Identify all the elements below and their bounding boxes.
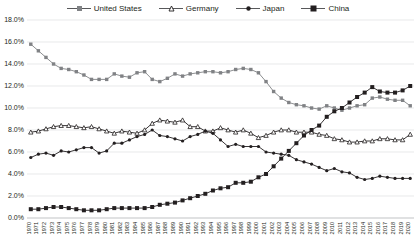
data-point-marker — [362, 139, 366, 143]
x-axis-tick-label: 2002 — [269, 222, 275, 234]
data-point-marker — [295, 158, 298, 161]
data-point-marker — [378, 137, 382, 141]
x-axis-tick-label: 1996 — [223, 222, 229, 234]
x-axis-tick-label: 2003 — [276, 222, 282, 234]
data-point-marker — [165, 202, 169, 206]
data-point-marker — [120, 142, 123, 145]
data-point-marker — [393, 91, 397, 95]
x-axis-tick-label: 1987 — [155, 222, 161, 234]
data-point-marker — [135, 71, 138, 74]
y-axis-tick-label: 10.0% — [4, 104, 24, 111]
data-point-marker — [287, 101, 290, 104]
x-axis-tick-label: 1978 — [87, 222, 93, 234]
data-point-marker — [105, 207, 109, 211]
data-point-marker — [378, 95, 381, 98]
data-point-marker — [393, 177, 396, 180]
legend-item-china[interactable]: China — [301, 4, 349, 13]
data-point-marker — [249, 68, 252, 71]
data-point-marker — [333, 167, 336, 170]
x-axis-tick-label: 1982 — [117, 222, 123, 234]
data-point-marker — [59, 205, 63, 209]
data-point-marker — [317, 124, 321, 128]
data-point-marker — [355, 95, 359, 99]
data-series-group — [29, 43, 413, 213]
data-point-marker — [196, 133, 199, 136]
legend-line-united-states — [67, 4, 91, 12]
x-axis-tick-label: 1970 — [26, 222, 32, 234]
y-axis-tick-label: 6.0% — [8, 148, 24, 155]
x-axis-tick-label: 1990 — [178, 222, 184, 234]
data-point-marker — [105, 78, 108, 81]
data-point-marker — [127, 206, 131, 210]
filled-square-marker-icon — [310, 5, 317, 12]
data-point-marker — [233, 130, 237, 134]
data-point-marker — [196, 194, 200, 198]
x-axis-tick-label: 1992 — [193, 222, 199, 234]
data-point-marker — [264, 150, 267, 153]
x-axis-tick-label: 2012 — [345, 222, 351, 234]
x-axis-tick-label: 1991 — [185, 222, 191, 234]
data-point-marker — [89, 125, 93, 129]
data-point-marker — [158, 118, 162, 122]
data-point-marker — [302, 130, 306, 134]
data-point-marker — [370, 85, 374, 89]
data-point-marker — [294, 130, 298, 134]
data-point-marker — [310, 163, 313, 166]
y-axis-tick-label: 14.0% — [4, 60, 24, 67]
data-point-marker — [355, 176, 358, 179]
x-axis-tick-label: 1985 — [140, 222, 146, 234]
data-point-marker — [363, 91, 367, 95]
data-point-marker — [173, 120, 177, 124]
x-axis-tick-label: 2016 — [375, 222, 381, 234]
x-axis-tick-label: 1971 — [33, 222, 39, 234]
x-axis-tick-label: 2000 — [253, 222, 259, 234]
data-point-marker — [158, 203, 162, 207]
data-point-marker — [280, 153, 283, 156]
data-point-marker — [90, 208, 94, 212]
data-point-marker — [143, 133, 146, 136]
legend-label-china: China — [328, 4, 349, 13]
x-axis-tick-label: 2017 — [382, 222, 388, 234]
data-point-marker — [219, 186, 223, 190]
y-axis-tick-label: 4.0% — [8, 170, 24, 177]
data-point-marker — [112, 206, 116, 210]
data-point-marker — [310, 128, 314, 132]
data-point-marker — [135, 131, 139, 135]
data-point-marker — [105, 149, 108, 152]
x-axis-tick-label: 2014 — [360, 222, 366, 234]
data-point-marker — [317, 107, 320, 110]
data-point-marker — [74, 125, 78, 129]
data-point-marker — [211, 70, 214, 73]
series-china — [29, 84, 412, 212]
data-point-marker — [181, 139, 184, 142]
legend-item-united-states[interactable]: United States — [67, 4, 142, 13]
legend-item-japan[interactable]: Japan — [236, 4, 285, 13]
x-axis-tick-label: 1998 — [238, 222, 244, 234]
data-point-marker — [181, 74, 184, 77]
x-axis-tick-label: 1975 — [64, 222, 70, 234]
data-point-marker — [173, 137, 176, 140]
data-point-marker — [317, 132, 321, 136]
x-axis-tick-label: 2015 — [367, 222, 373, 234]
x-axis-tick-label: 2019 — [398, 222, 404, 234]
data-point-marker — [36, 129, 40, 133]
data-point-marker — [120, 74, 123, 77]
data-point-marker — [257, 71, 260, 74]
data-point-marker — [310, 106, 313, 109]
data-point-marker — [82, 146, 85, 149]
data-point-marker — [241, 181, 245, 185]
data-point-marker — [29, 130, 33, 134]
square-marker-icon — [76, 5, 83, 12]
x-axis-tick-label: 1984 — [132, 222, 138, 234]
data-point-marker — [401, 88, 405, 92]
data-point-marker — [211, 132, 214, 135]
legend-item-germany[interactable]: Germany — [159, 4, 219, 13]
data-point-marker — [279, 157, 283, 161]
x-axis-tick-label: 2007 — [307, 222, 313, 234]
data-point-marker — [29, 156, 32, 159]
chart-container: United States Germany Japan — [0, 0, 416, 250]
x-axis-tick-label: 1997 — [231, 222, 237, 234]
data-point-marker — [294, 141, 298, 145]
data-point-marker — [29, 207, 33, 211]
data-point-marker — [44, 56, 47, 59]
